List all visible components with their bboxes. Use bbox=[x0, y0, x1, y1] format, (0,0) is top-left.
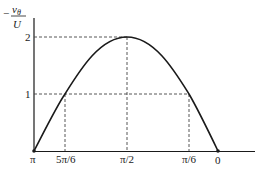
y-tick-1: 1 bbox=[25, 88, 31, 100]
x-tick-5pi6: 5π/6 bbox=[56, 153, 76, 165]
x-tick-pi6: π/6 bbox=[182, 153, 197, 165]
x-tick-pi2: π/2 bbox=[120, 153, 134, 165]
y-label-denominator: U bbox=[13, 18, 22, 30]
x-tick-0: 0 bbox=[215, 154, 221, 166]
y-label-minus: − bbox=[3, 7, 9, 19]
y-tick-2: 2 bbox=[25, 31, 31, 43]
chart-canvas: − vθ U 2 1 π 5π/6 π/2 π/6 0 bbox=[0, 0, 257, 169]
point-zero bbox=[216, 149, 220, 153]
y-label-numerator: vθ bbox=[12, 3, 21, 17]
x-tick-pi: π bbox=[30, 153, 36, 165]
reference-lines bbox=[34, 37, 189, 151]
